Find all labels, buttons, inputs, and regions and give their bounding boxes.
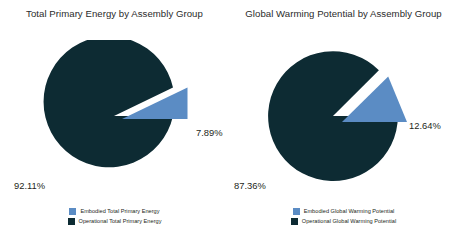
chart-panel-total-primary-energy: Total Primary Energy by Assembly Group 9… xyxy=(0,0,229,250)
legend-label-operational: Operational Global Warming Potential xyxy=(302,218,396,225)
legend-swatch-operational-icon xyxy=(291,218,298,225)
legend-item-operational[interactable]: Operational Global Warming Potential xyxy=(291,218,396,225)
page-title: Total Primary Energy by Assembly Group xyxy=(0,8,229,20)
legend-item-embodied[interactable]: Embodied Total Primary Energy xyxy=(69,208,159,215)
pie-chart-global-warming-potential: 87.36% 12.64% xyxy=(229,40,458,200)
legend-item-embodied[interactable]: Embodied Global Warming Potential xyxy=(293,208,395,215)
pie-label-operational-percent: 92.11% xyxy=(14,180,45,191)
pie-slice-operational[interactable] xyxy=(44,40,173,167)
legend-swatch-embodied-icon xyxy=(69,208,76,215)
pie-label-operational-percent: 87.36% xyxy=(234,180,266,191)
legend-total-primary-energy: Embodied Total Primary Energy Operationa… xyxy=(0,208,229,225)
legend-label-operational: Operational Total Primary Energy xyxy=(79,218,162,225)
pie-chart-total-primary-energy: 92.11% 7.89% xyxy=(0,40,229,200)
pie-svg-left xyxy=(0,40,229,200)
pie-label-embodied-percent: 12.64% xyxy=(409,120,441,131)
chart-panel-global-warming-potential: Global Warming Potential by Assembly Gro… xyxy=(229,0,458,250)
pie-label-embodied-percent: 7.89% xyxy=(196,127,223,138)
legend-label-embodied: Embodied Global Warming Potential xyxy=(304,208,395,215)
legend-global-warming-potential: Embodied Global Warming Potential Operat… xyxy=(229,208,458,225)
pie-chart-figure: Total Primary Energy by Assembly Group 9… xyxy=(0,0,458,250)
legend-label-embodied: Embodied Total Primary Energy xyxy=(80,208,159,215)
legend-swatch-operational-icon xyxy=(68,218,75,225)
page-title-secondary: Global Warming Potential by Assembly Gro… xyxy=(229,8,458,20)
legend-swatch-embodied-icon xyxy=(293,208,300,215)
legend-item-operational[interactable]: Operational Total Primary Energy xyxy=(68,218,162,225)
